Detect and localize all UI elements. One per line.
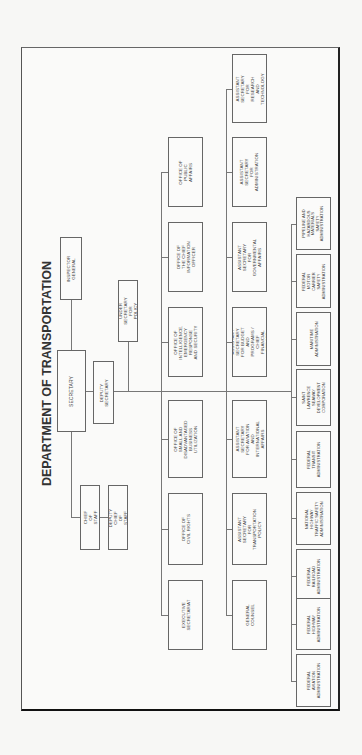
connector-tick bbox=[161, 615, 168, 616]
box-label: ASSISTANT SECRETARY FOR ADMINISTRATION bbox=[240, 153, 260, 192]
box-label: OFFICE OF PUBLIC AFFAIRS bbox=[178, 156, 193, 189]
box-deputy-secretary: DEPUTY SECRETARY bbox=[93, 361, 114, 424]
box-label: GENERAL COUNSEL bbox=[245, 604, 255, 626]
page-title: DEPARTMENT OF TRANSPORTATION bbox=[40, 286, 56, 486]
box-asst-sec-research-technology: ASSISTANT SECRETARY FOR RESEARCH AND TEC… bbox=[232, 54, 267, 123]
box-label: MARITIME ADMINISTRATION bbox=[309, 321, 319, 356]
box-slsdc: SAINT LAWRENCE SEAWAY DEVELOPMENT CORPOR… bbox=[296, 369, 331, 426]
box-label: SAINT LAWRENCE SEAWAY DEVELOPMENT CORPOR… bbox=[301, 381, 326, 414]
box-fhwa: FEDERAL HIGHWAY ADMINISTRATION bbox=[296, 598, 331, 650]
box-general-counsel: GENERAL COUNSEL bbox=[232, 580, 267, 650]
box-office-small-business: OFFICE OF SMALL AND DISADVANTAGED BUSINE… bbox=[168, 400, 203, 478]
connector-main-trunk bbox=[114, 391, 291, 392]
box-label: EXECUTIVE SECRETARIAT bbox=[181, 599, 191, 630]
connector-tick bbox=[161, 439, 168, 440]
box-office-intelligence: OFFICE OF INTELLIGENCE, EMERGENCY RESPON… bbox=[168, 307, 203, 377]
box-label: OFFICE OF INTELLIGENCE, EMERGENCY RESPON… bbox=[173, 325, 198, 359]
connector-secretary-ig bbox=[71, 300, 72, 350]
box-fmcsa: FEDERAL MOTOR CARRIER SAFETY ADMINISTRAT… bbox=[296, 254, 331, 308]
box-label: ASSISTANT SECRETARY FOR AVIATION AND INT… bbox=[235, 421, 265, 457]
box-label: FEDERAL HIGHWAY ADMINISTRATION bbox=[306, 606, 321, 641]
box-nhtsa: NATIONAL HIGHWAY TRAFFIC SAFETY ADMINIST… bbox=[296, 492, 331, 545]
box-label: CHIEF OF STAFF bbox=[83, 509, 98, 527]
box-label: NATIONAL HIGHWAY TRAFFIC SAFETY ADMINIST… bbox=[304, 501, 324, 536]
box-asst-sec-budget-cfo: ASSISTANT SECRETARY FOR BUDGET AND PROGR… bbox=[232, 307, 267, 377]
box-office-cio: OFFICE OF THE CHIEF INFORMATION OFFICER bbox=[168, 222, 203, 292]
connector-under-secretary bbox=[128, 342, 129, 391]
box-label: INSPECTOR GENERAL bbox=[66, 255, 76, 281]
box-office-civil-rights: OFFICE OF CIVIL RIGHTS bbox=[168, 493, 203, 565]
box-chief-of-staff: CHIEF OF STAFF bbox=[80, 485, 100, 550]
connector-cos-deputy bbox=[100, 517, 108, 518]
connector-tick bbox=[161, 172, 168, 173]
box-label: PIPELINE AND HAZARDOUS MATERIALS SAFETY … bbox=[302, 206, 325, 241]
box-label: FEDERAL MOTOR CARRIER SAFETY ADMINISTRAT… bbox=[301, 263, 326, 298]
box-label: DEPUTY CHIEF OF STAFF bbox=[108, 508, 128, 526]
box-asst-sec-governmental-affairs: ASSISTANT SECRETARY FOR GOVERNMENTAL AFF… bbox=[232, 222, 267, 292]
connector-secretary-deputy bbox=[86, 391, 93, 392]
box-secretary: SECRETARY bbox=[57, 350, 86, 432]
box-under-secretary: UNDER SECRETARY FOR POLICY bbox=[118, 280, 138, 342]
connector-tick bbox=[161, 529, 168, 530]
box-asst-sec-transportation-policy: ASSISTANT SECRETARY FOR TRANSPORTATION P… bbox=[232, 493, 267, 565]
connector-tick bbox=[161, 342, 168, 343]
connector-tick bbox=[161, 257, 168, 258]
box-label: OFFICE OF SMALL AND DISADVANTAGED BUSINE… bbox=[173, 420, 198, 458]
connector-admin-rail bbox=[291, 224, 292, 681]
box-label: OFFICE OF THE CHIEF INFORMATION OFFICER bbox=[176, 241, 196, 274]
box-label: ASSISTANT SECRETARY FOR TRANSPORTATION P… bbox=[237, 508, 262, 549]
connector-secretary-cos bbox=[71, 432, 72, 518]
box-asst-sec-aviation-international: ASSISTANT SECRETARY FOR AVIATION AND INT… bbox=[232, 400, 267, 478]
box-label: SECRETARY bbox=[69, 375, 74, 406]
box-label: ASSISTANT SECRETARY FOR GOVERNMENTAL AFF… bbox=[237, 238, 262, 276]
box-label: OFFICE OF CIVIL RIGHTS bbox=[180, 514, 190, 544]
box-phmsa: PIPELINE AND HAZARDOUS MATERIALS SAFETY … bbox=[296, 197, 331, 250]
box-label: DEPUTY SECRETARY bbox=[99, 379, 109, 406]
box-fra: FEDERAL RAILROAD ADMINISTRATION bbox=[296, 549, 331, 603]
box-marad: MARITIME ADMINISTRATION bbox=[296, 312, 331, 366]
box-asst-sec-administration: ASSISTANT SECRETARY FOR ADMINISTRATION bbox=[232, 137, 267, 207]
box-faa: FEDERAL AVIATION ADMINISTRATION bbox=[296, 654, 331, 707]
box-label: FEDERAL AVIATION ADMINISTRATION bbox=[306, 663, 321, 698]
box-label: ASSISTANT SECRETARY FOR RESEARCH AND TEC… bbox=[235, 72, 265, 105]
box-label: FEDERAL TRANSIT ADMINISTRATION bbox=[306, 442, 321, 477]
box-deputy-chief-of-staff: DEPUTY CHIEF OF STAFF bbox=[108, 485, 128, 550]
box-office-public-affairs: OFFICE OF PUBLIC AFFAIRS bbox=[168, 137, 203, 207]
box-label: ASSISTANT SECRETARY FOR BUDGET AND PROGR… bbox=[232, 326, 267, 359]
connector-asst-rail bbox=[226, 89, 227, 615]
box-label: FEDERAL RAILROAD ADMINISTRATION bbox=[306, 558, 321, 593]
connector-cos bbox=[71, 517, 80, 518]
box-label: UNDER SECRETARY FOR POLICY bbox=[118, 297, 138, 324]
connector-offices-rail bbox=[161, 172, 162, 615]
box-fta: FEDERAL TRANSIT ADMINISTRATION bbox=[296, 431, 331, 488]
box-inspector-general: INSPECTOR GENERAL bbox=[60, 237, 82, 300]
box-executive-secretariat: EXECUTIVE SECRETARIAT bbox=[168, 580, 203, 650]
